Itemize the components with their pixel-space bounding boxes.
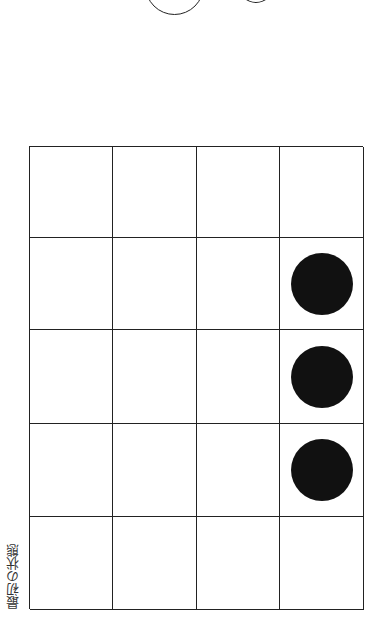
board-cell [30, 238, 113, 330]
outline-circle-left [145, 0, 204, 15]
board-cell [197, 517, 280, 610]
board-cell [280, 330, 364, 424]
outline-circle-right [238, 0, 274, 3]
diagram-caption: 最初の状態 [2, 519, 24, 609]
board-cell [30, 517, 113, 610]
board-cell [197, 238, 280, 330]
board-cell [30, 424, 113, 517]
black-piece [291, 346, 353, 408]
board-cell [280, 147, 364, 238]
board-cell [280, 424, 364, 517]
board-cell [280, 517, 364, 610]
board-cell [197, 424, 280, 517]
board-cell [30, 147, 113, 238]
board-cell [197, 147, 280, 238]
black-piece [291, 253, 353, 315]
board-cell [113, 424, 197, 517]
board-cell [280, 238, 364, 330]
board-cell [113, 330, 197, 424]
black-piece [291, 439, 353, 501]
board-grid [29, 146, 363, 609]
board-cell [113, 147, 197, 238]
board-cell [113, 517, 197, 610]
board-cell [197, 330, 280, 424]
board-cell [113, 238, 197, 330]
board-cell [30, 330, 113, 424]
